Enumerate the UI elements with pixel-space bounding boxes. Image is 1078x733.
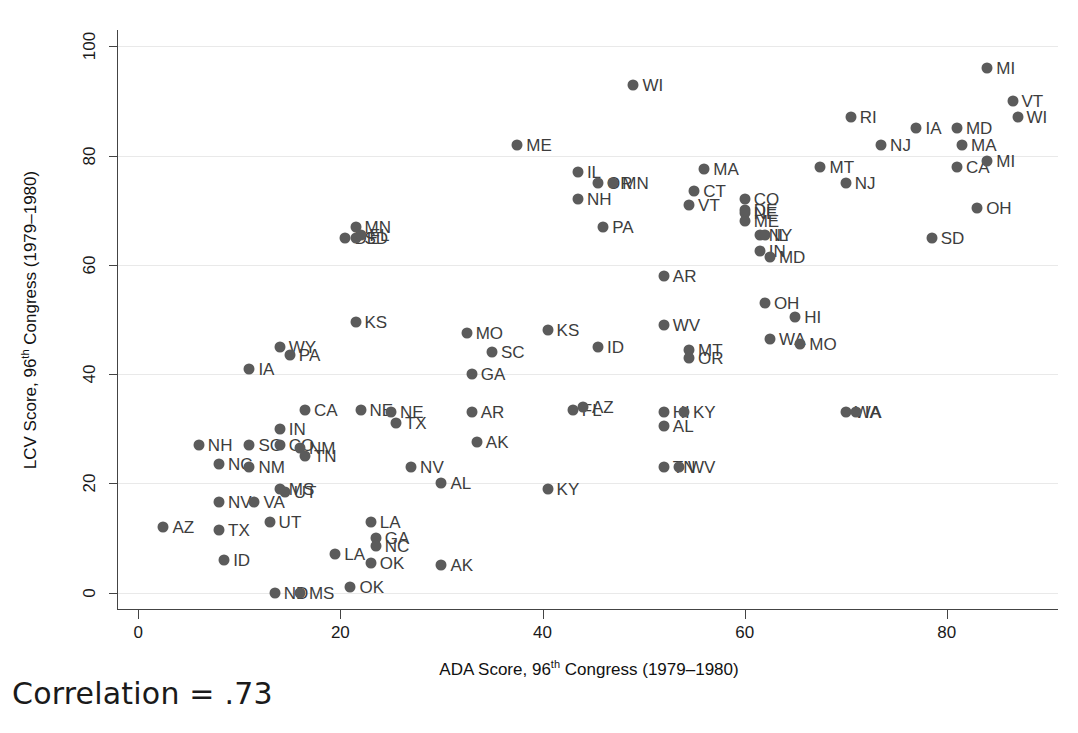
data-point[interactable] [658, 421, 669, 432]
data-point[interactable] [658, 270, 669, 281]
data-point[interactable] [542, 483, 553, 494]
x-axis-title-suffix: Congress (1979–1980) [560, 660, 739, 679]
data-point[interactable] [214, 524, 225, 535]
y-axis-title-suffix: Congress (1979–1980) [21, 171, 40, 350]
data-point-label: MO [809, 335, 836, 355]
data-point[interactable] [385, 407, 396, 418]
data-point[interactable] [628, 79, 639, 90]
data-point[interactable] [790, 311, 801, 322]
data-point[interactable] [593, 341, 604, 352]
data-point[interactable] [658, 461, 669, 472]
y-tick-label-80: 80 [80, 146, 100, 165]
data-point[interactable] [572, 194, 583, 205]
data-point[interactable] [911, 123, 922, 134]
data-point[interactable] [764, 251, 775, 262]
y-axis-title-superscript: th [19, 349, 31, 358]
data-point[interactable] [542, 325, 553, 336]
data-point[interactable] [355, 404, 366, 415]
data-point[interactable] [951, 123, 962, 134]
data-point-label: AK [486, 433, 509, 453]
data-point[interactable] [299, 451, 310, 462]
data-point[interactable] [840, 177, 851, 188]
data-point-label: LA [344, 545, 365, 565]
data-point-label: RI [860, 108, 877, 128]
data-point[interactable] [193, 440, 204, 451]
data-point[interactable] [926, 232, 937, 243]
data-point[interactable] [1012, 112, 1023, 123]
data-point[interactable] [345, 582, 356, 593]
data-point[interactable] [764, 333, 775, 344]
data-point[interactable] [577, 401, 588, 412]
data-point[interactable] [269, 587, 280, 598]
data-point[interactable] [249, 497, 260, 508]
data-point[interactable] [219, 554, 230, 565]
data-point[interactable] [244, 461, 255, 472]
x-tick-label-0: 0 [133, 623, 142, 643]
data-point[interactable] [684, 352, 695, 363]
data-point[interactable] [471, 437, 482, 448]
data-point[interactable] [370, 541, 381, 552]
y-tick-label-0: 0 [80, 588, 100, 597]
data-point[interactable] [679, 407, 690, 418]
data-point[interactable] [951, 161, 962, 172]
data-point[interactable] [593, 177, 604, 188]
data-point[interactable] [815, 161, 826, 172]
data-point-label: NV [420, 458, 444, 478]
data-point[interactable] [795, 339, 806, 350]
data-point[interactable] [299, 404, 310, 415]
data-point[interactable] [274, 423, 285, 434]
data-point[interactable] [279, 486, 290, 497]
plot-area [118, 30, 1058, 610]
data-point[interactable] [673, 461, 684, 472]
data-point-label: AK [450, 556, 473, 576]
data-point[interactable] [350, 317, 361, 328]
data-point[interactable] [658, 407, 669, 418]
data-point[interactable] [284, 350, 295, 361]
data-point[interactable] [365, 516, 376, 527]
data-point[interactable] [406, 461, 417, 472]
data-point[interactable] [956, 139, 967, 150]
data-point[interactable] [759, 229, 770, 240]
y-tick-mark-40 [109, 374, 118, 375]
data-point[interactable] [274, 341, 285, 352]
gridline-y-80 [118, 156, 1058, 157]
data-point[interactable] [244, 363, 255, 374]
data-point[interactable] [608, 177, 619, 188]
data-point[interactable] [658, 319, 669, 330]
data-point[interactable] [1007, 96, 1018, 107]
data-point[interactable] [845, 112, 856, 123]
data-point[interactable] [330, 549, 341, 560]
data-point[interactable] [699, 164, 710, 175]
data-point[interactable] [466, 369, 477, 380]
data-point[interactable] [486, 347, 497, 358]
data-point[interactable] [982, 63, 993, 74]
data-point[interactable] [759, 298, 770, 309]
data-point[interactable] [598, 221, 609, 232]
data-point[interactable] [739, 194, 750, 205]
data-point[interactable] [264, 516, 275, 527]
data-point-label: NM [258, 458, 284, 478]
data-point[interactable] [461, 328, 472, 339]
data-point[interactable] [512, 139, 523, 150]
data-point[interactable] [274, 440, 285, 451]
data-point[interactable] [158, 522, 169, 533]
data-point[interactable] [244, 440, 255, 451]
data-point[interactable] [214, 497, 225, 508]
data-point[interactable] [982, 156, 993, 167]
data-point[interactable] [355, 229, 366, 240]
data-point[interactable] [365, 557, 376, 568]
data-point[interactable] [850, 407, 861, 418]
data-point[interactable] [466, 407, 477, 418]
data-point[interactable] [572, 167, 583, 178]
data-point-label: IA [258, 360, 274, 380]
data-point[interactable] [436, 560, 447, 571]
data-point[interactable] [689, 186, 700, 197]
data-point[interactable] [214, 459, 225, 470]
data-point[interactable] [684, 199, 695, 210]
data-point[interactable] [972, 202, 983, 213]
data-point[interactable] [739, 216, 750, 227]
data-point[interactable] [436, 478, 447, 489]
data-point[interactable] [390, 418, 401, 429]
data-point[interactable] [294, 587, 305, 598]
data-point[interactable] [876, 139, 887, 150]
